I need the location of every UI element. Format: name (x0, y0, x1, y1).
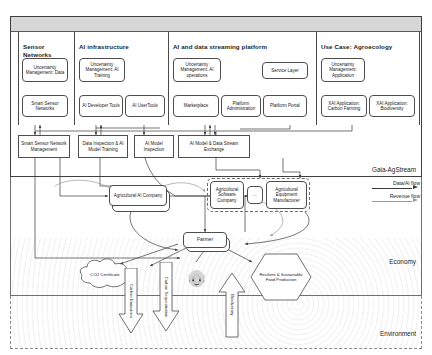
carbon-emissions-arrow: Carbon Emissions (118, 268, 144, 334)
box-platform-administration[interactable]: Platform Administration (221, 95, 261, 117)
actor-agricultural-equipment-manufacturer[interactable]: Agricultural Equipment Manufacturer (266, 181, 307, 209)
carbon-sequestration-arrow: Carbon Sequestration (152, 262, 180, 332)
service-smart-sensor-network-management[interactable]: Smart Sensor Network Management (18, 135, 70, 158)
box-marketplace[interactable]: Marketplace (173, 95, 219, 117)
legend-line-revenue-flow (372, 201, 412, 202)
box-xai-application-carbon-farming[interactable]: XAI Application: Carbon Farming (321, 95, 367, 117)
carbon-sequestration-label: Carbon Sequestration (164, 277, 169, 318)
box-ai-developer-tools[interactable]: AI Developer Tools (79, 95, 123, 117)
box-ai-user-tools[interactable]: AI UserTools (125, 95, 165, 117)
layer-label-economy: Economy (296, 258, 416, 265)
resilient-food-production-label: Resilient & Sustainable Food Production (250, 272, 312, 282)
actor-agricultural-software-company[interactable]: Agricultural Software Company (210, 181, 244, 209)
box-xai-application-biodiversity[interactable]: XAI Application: Biodiversity (369, 95, 415, 117)
column-title-ai-data-streaming-platform: AI and data streaming platform (173, 43, 313, 51)
legend-item-revenue-flow: Revenue flow (342, 193, 420, 206)
box-uncertainty-management-ai-training[interactable]: Uncertainty Management: AI Training (79, 58, 125, 82)
layer-label-environment: Environment (296, 330, 416, 337)
box-uncertainty-management-data[interactable]: Uncertainty Management: Data (22, 58, 68, 82)
legend-item-data-ai-flow: Data/AI flow (342, 180, 420, 193)
farmer-person-icon: 👴 (186, 268, 206, 290)
service-ai-model-inspection[interactable]: AI Model Inspection (134, 135, 174, 158)
column-title-ai-infrastructure: AI infrastructure (79, 43, 165, 51)
legend-arrow-revenue-flow (413, 198, 418, 202)
actor-ellipsis[interactable]: … (247, 186, 263, 204)
column-title-sensor-networks: Sensor Networks (23, 43, 69, 58)
biodiversity-arrow: Biodiversity (218, 272, 246, 338)
actor-agricultural-ai-company[interactable]: Agricultural AI Company (109, 185, 167, 206)
layer-label-gaia-agstream: Gaia-AgStream (296, 166, 416, 173)
column-title-use-case-agroecology: Use Case: Agroecology (321, 43, 419, 51)
diagram-canvas: Sensor Networks AI infrastructure AI and… (0, 0, 432, 355)
box-platform-portal[interactable]: Platform Portal (263, 95, 307, 117)
header-bar (11, 17, 421, 32)
legend-arrow-data-ai-flow (413, 185, 418, 189)
legend: Data/AI flow Revenue flow (342, 180, 420, 206)
service-ai-model-data-stream-exchange[interactable]: AI Model & Data Stream Exchange (178, 135, 250, 158)
actor-farmer[interactable]: Farmer (183, 232, 227, 248)
carbon-emissions-label: Carbon Emissions (129, 284, 134, 318)
service-data-inspection-ai-model-training[interactable]: Data Inspection & AI Model Training (78, 135, 128, 158)
legend-line-data-ai-flow (372, 188, 412, 189)
biodiversity-label: Biodiversity (230, 294, 235, 315)
box-uncertainty-management-application[interactable]: Uncertainty Management: Application (321, 58, 365, 82)
box-smart-sensor-networks[interactable]: Smart Sensor Networks (22, 95, 68, 117)
box-service-layer[interactable]: Service Layer (262, 62, 308, 79)
box-uncertainty-management-ai-operations[interactable]: Uncertainty Management: AI operations (173, 58, 221, 82)
